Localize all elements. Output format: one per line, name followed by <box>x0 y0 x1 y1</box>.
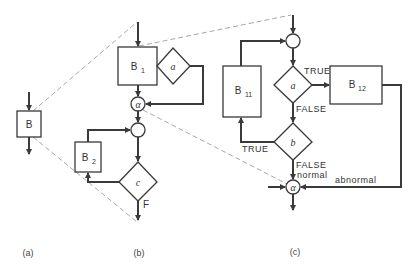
a-true-label: TRUE <box>304 66 331 76</box>
a-false-label: FALSE <box>296 104 327 114</box>
block-b1-label: B <box>131 61 138 72</box>
block-b1-subscript: 1 <box>141 67 145 74</box>
panel-b: B 1 a α c B 2 F (b) <box>75 22 203 258</box>
block-b12-subscript: 12 <box>358 85 366 92</box>
b-true-to-b11 <box>241 118 274 142</box>
merge-node <box>286 34 300 48</box>
flowchart-figure: B (a) B 1 a α c B 2 F (b) a TR <box>0 0 418 275</box>
abnormal-label: abnormal <box>335 175 377 185</box>
block-b-label: B <box>26 119 33 130</box>
panel-c: a TRUE B 12 abnormal FALSE B 11 b TRUE F… <box>223 15 401 257</box>
b-false-label: FALSE <box>296 160 327 170</box>
b11-loop-back <box>241 41 285 66</box>
decision-a-label: a <box>291 80 296 91</box>
block-b2-subscript: 2 <box>92 158 96 165</box>
block-b12-label: B <box>349 79 356 90</box>
block-b11-label: B <box>235 85 242 96</box>
junction-alpha-label: α <box>135 99 141 110</box>
block-b2-label: B <box>82 152 89 163</box>
block-b11 <box>223 66 261 117</box>
block-b12 <box>330 66 382 104</box>
block-b1 <box>118 47 157 85</box>
block-b11-subscript: 11 <box>245 91 252 98</box>
decision-b-label: b <box>291 137 296 148</box>
normal-label: normal <box>297 170 328 180</box>
decision-c-label: c <box>136 177 141 188</box>
panel-a: B (a) <box>17 92 41 258</box>
b-true-label: TRUE <box>242 144 269 154</box>
caption-a: (a) <box>23 248 34 258</box>
c-true-to-b2 <box>88 173 119 182</box>
caption-c: (c) <box>290 247 301 257</box>
merge-node <box>131 123 145 137</box>
b2-loop-back <box>88 130 130 142</box>
exit-label-f: F <box>143 199 149 210</box>
caption-b: (b) <box>134 248 145 258</box>
decision-a-label: a <box>171 61 176 72</box>
junction-alpha-label: α <box>290 182 296 193</box>
expansion-lines <box>33 15 291 222</box>
